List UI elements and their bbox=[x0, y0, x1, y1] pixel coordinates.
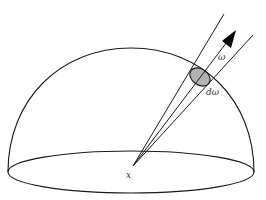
hemisphere-diagram: ω dω x bbox=[0, 0, 266, 200]
solid-angle-label: dω bbox=[206, 87, 220, 97]
direction-label: ω bbox=[218, 52, 226, 62]
hemisphere-dome-arc bbox=[8, 48, 254, 172]
origin-label: x bbox=[126, 170, 131, 180]
cone-edge-line-right bbox=[133, 35, 253, 166]
